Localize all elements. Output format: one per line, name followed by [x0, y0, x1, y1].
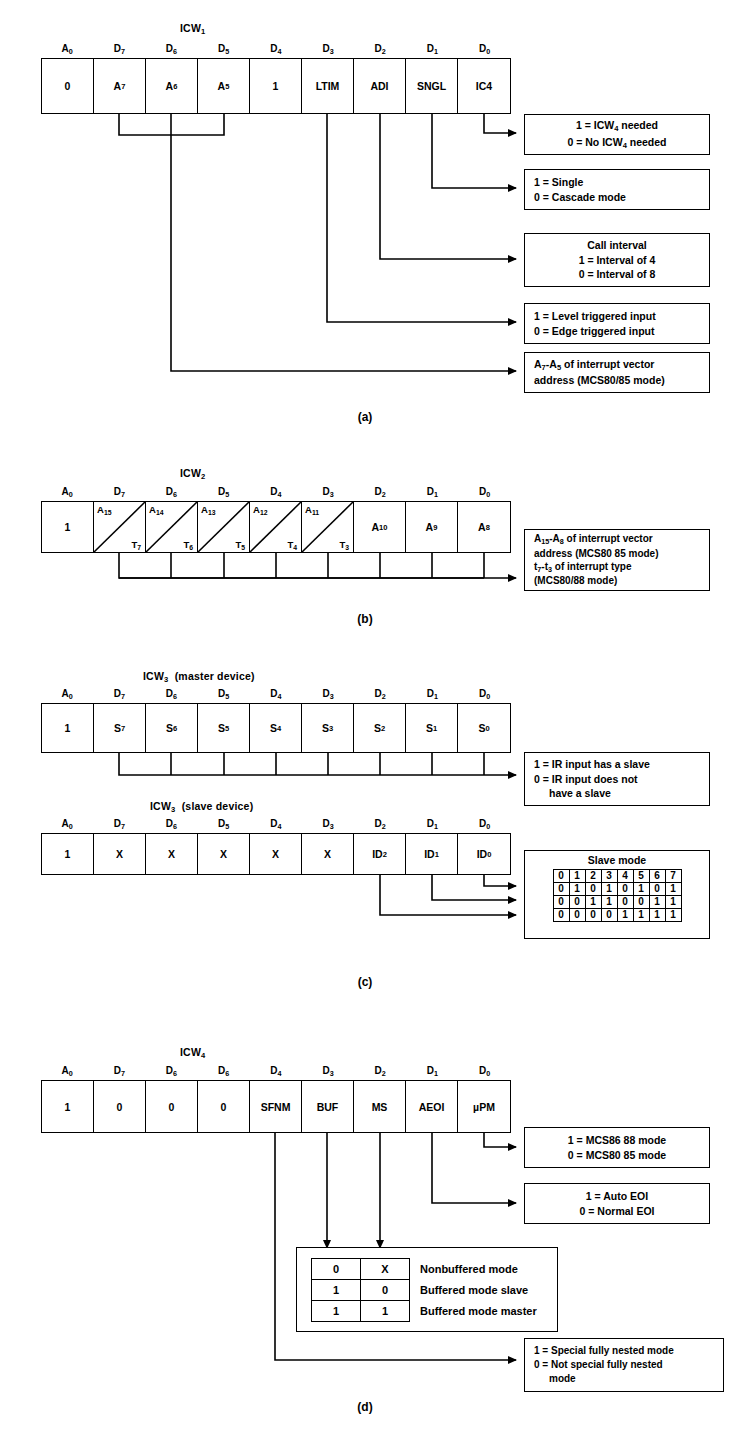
icw4-cell-d2: MS — [354, 1081, 406, 1132]
icw3s-cell-d7: X — [94, 834, 146, 874]
icw2-title: ICW2 — [180, 467, 205, 481]
icw3-slave-title: ICW3 (slave device) — [150, 800, 253, 814]
icw2-cell-d4: A12 T4 — [250, 502, 302, 552]
icw3s-cell-d1: ID1 — [406, 834, 458, 874]
sngl-callout: 1 = Single 0 = Cascade mode — [524, 169, 710, 210]
section-label-c: (c) — [335, 975, 395, 989]
cell: 1 — [649, 909, 665, 922]
cell: 0 — [649, 883, 665, 896]
icw2-pin-d4: D4 — [250, 486, 302, 499]
icw3m-pin-d6: D6 — [145, 688, 197, 701]
cell: 0 — [553, 896, 569, 909]
icw1-cell-d0: IC4 — [458, 59, 510, 113]
icw2-pin-d5: D5 — [198, 486, 250, 499]
icw2-pin-d3: D3 — [302, 486, 354, 499]
upm-callout: 1 = MCS86 88 mode 0 = MCS80 85 mode — [524, 1127, 710, 1168]
buf-value: 0 — [312, 1258, 361, 1279]
icw2-cell-d3: A11 T3 — [302, 502, 354, 552]
cell: 0 — [601, 909, 617, 922]
cell: 0 — [553, 909, 569, 922]
icw2-cell-d2: A10 — [354, 502, 406, 552]
ms-value: X — [361, 1258, 410, 1279]
icw4-title: ICW4 — [180, 1046, 205, 1060]
icw4-cell-d0: µPM — [458, 1081, 510, 1132]
icw2-cell-d6: A14 T6 — [146, 502, 198, 552]
cell: 0 — [633, 896, 649, 909]
icw1-pin-d6: D6 — [145, 43, 197, 56]
callout-line: address (MCS80 85 mode) — [534, 547, 659, 561]
section-label-b: (b) — [335, 612, 395, 626]
icw3s-pin-d0: D0 — [459, 818, 511, 831]
icw3s-pin-a0: A0 — [41, 818, 93, 831]
table-row: 01 23 45 67 — [553, 870, 681, 883]
icw1-pin-d2: D2 — [354, 43, 406, 56]
section-label-d: (d) — [335, 1400, 395, 1414]
cell: 1 — [569, 883, 585, 896]
icw1-cell-d4: 1 — [250, 59, 302, 113]
icw3s-pin-d2: D2 — [354, 818, 406, 831]
icw3s-pin-d7: D7 — [93, 818, 145, 831]
icw3m-cell-d2: S2 — [354, 704, 406, 752]
icw3-slave-cells: 1 X X X X X ID2 ID1 ID0 — [41, 833, 511, 875]
section-label-a: (a) — [335, 410, 395, 424]
sfnm-callout: 1 = Special fully nested mode 0 = Not sp… — [524, 1338, 724, 1392]
cell-upper: A13 — [201, 504, 215, 516]
cell-upper: A11 — [305, 504, 319, 516]
icw3s-pin-d1: D1 — [406, 818, 458, 831]
cell-lower: T4 — [287, 539, 297, 551]
icw-figure: ICW1 A0 D7 D6 D5 D4 D3 D2 D1 D0 0 A7 A6 … — [0, 0, 730, 1433]
callout-line: mode — [534, 1372, 576, 1386]
icw3s-cell-d4: X — [250, 834, 302, 874]
callout-line: 0 = Edge triggered input — [534, 324, 654, 339]
icw3s-cell-d2: ID2 — [354, 834, 406, 874]
cell: 1 — [617, 909, 633, 922]
buf-value: 1 — [312, 1279, 361, 1300]
cell: 0 — [569, 896, 585, 909]
mode-label: Buffered mode master — [410, 1300, 538, 1321]
icw2-pin-d6: D6 — [145, 486, 197, 499]
icw1-cells: 0 A7 A6 A5 1 LTIM ADI SNGL IC4 — [41, 58, 511, 114]
cell-upper: A15 — [97, 504, 111, 516]
slave-mode-table-box: Slave mode 01 23 45 67 01 01 01 01 00 11… — [524, 850, 710, 939]
icw2-cell-d0: A8 — [458, 502, 510, 552]
icw2-cells: 1 A15 T7 A14 T6 A13 T5 — [41, 501, 511, 553]
table-row: 1 1 Buffered mode master — [312, 1300, 538, 1321]
icw4-cell-d7: 0 — [94, 1081, 146, 1132]
icw3m-pin-d4: D4 — [250, 688, 302, 701]
mode-label: Buffered mode slave — [410, 1279, 538, 1300]
cell: 0 — [553, 870, 569, 883]
icw4-pin-d7: D7 — [93, 1065, 145, 1078]
callout-line: 1 = ICW4 needed — [576, 118, 658, 134]
cell-lower: T3 — [339, 539, 349, 551]
icw3-master-cells: 1 S7 S6 S5 S4 S3 S2 S1 S0 — [41, 703, 511, 753]
icw1-cell-d5: A5 — [198, 59, 250, 113]
icw4-cell-a0: 1 — [42, 1081, 94, 1132]
callout-line: 1 = MCS86 88 mode — [568, 1133, 666, 1148]
icw1-cell-a0: 0 — [42, 59, 94, 113]
master-slave-callout: 1 = IR input has a slave 0 = IR input do… — [524, 752, 710, 806]
slave-mode-caption: Slave mode — [525, 851, 709, 866]
ltim-callout: 1 = Level triggered input 0 = Edge trigg… — [524, 303, 710, 344]
callout-line: A15-A8 of interrupt vector — [534, 532, 653, 546]
cell: 3 — [601, 870, 617, 883]
cell: 7 — [665, 870, 681, 883]
icw1-cell-d1: SNGL — [406, 59, 458, 113]
icw2-cell-d1: A9 — [406, 502, 458, 552]
aeoi-callout: 1 = Auto EOI 0 = Normal EOI — [524, 1183, 710, 1224]
icw3m-cell-d6: S6 — [146, 704, 198, 752]
icw3s-pin-d3: D3 — [302, 818, 354, 831]
icw3s-pin-d6: D6 — [145, 818, 197, 831]
icw2-pin-d1: D1 — [406, 486, 458, 499]
icw1-pin-row: A0 D7 D6 D5 D4 D3 D2 D1 D0 — [41, 43, 511, 56]
icw1-pin-d1: D1 — [406, 43, 458, 56]
callout-line: A7-A5 of interrupt vector — [534, 357, 654, 373]
cell-lower: T7 — [131, 539, 141, 551]
icw1-cell-d6: A6 — [146, 59, 198, 113]
table-row: 00 11 00 11 — [553, 896, 681, 909]
icw4-pin-a0: A0 — [41, 1065, 93, 1078]
cell: 1 — [601, 883, 617, 896]
icw1-pin-d7: D7 — [93, 43, 145, 56]
icw4-pin-d6: D6 — [145, 1065, 197, 1078]
table-row: 1 0 Buffered mode slave — [312, 1279, 538, 1300]
icw4-pin-d4: D4 — [250, 1065, 302, 1078]
